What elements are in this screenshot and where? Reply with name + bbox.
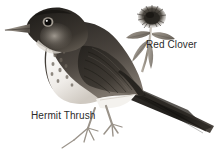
label-red-clover: Red Clover [146,39,197,50]
clover-illustration [0,0,216,159]
illustration-canvas: Hermit Thrush Red Clover [0,0,216,159]
clover-bloom [137,5,166,28]
label-hermit-thrush: Hermit Thrush [31,110,95,121]
